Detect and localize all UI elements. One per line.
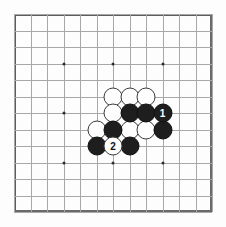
grid-line-horizontal-12 bbox=[14, 212, 212, 213]
grid-line-vertical-11 bbox=[196, 14, 197, 212]
stone-black-7-8[interactable] bbox=[120, 137, 139, 156]
stone-black-9-7[interactable] bbox=[153, 120, 172, 139]
star-point-6-3 bbox=[112, 62, 115, 65]
grid-line-horizontal-10 bbox=[14, 179, 212, 180]
stone-move-1[interactable]: 1 bbox=[153, 104, 172, 123]
go-board-diagram: 12 bbox=[0, 0, 226, 227]
star-point-3-3 bbox=[62, 62, 65, 65]
star-point-3-9 bbox=[62, 161, 65, 164]
goban[interactable]: 12 bbox=[14, 14, 212, 212]
star-point-9-9 bbox=[161, 161, 164, 164]
move-number-label: 2 bbox=[110, 141, 116, 151]
stone-move-2[interactable]: 2 bbox=[104, 137, 123, 156]
star-point-6-9 bbox=[112, 161, 115, 164]
move-number-label: 1 bbox=[160, 108, 166, 118]
grid-line-vertical-10 bbox=[179, 14, 180, 212]
grid-line-horizontal-11 bbox=[14, 196, 212, 197]
star-point-9-3 bbox=[161, 62, 164, 65]
star-point-3-6 bbox=[62, 112, 65, 115]
grid-line-vertical-12 bbox=[212, 14, 213, 212]
